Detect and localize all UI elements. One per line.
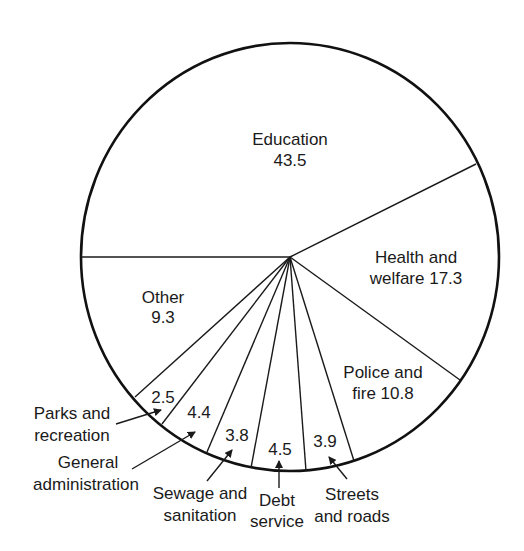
label-parks-line1: Parks and [34, 404, 111, 423]
label-police-line1: Police and [343, 363, 422, 382]
label-health-line1: Health and [375, 248, 457, 267]
label-general-value: 4.4 [187, 403, 211, 422]
label-other-value: 9.3 [151, 308, 175, 327]
label-general-line2: administration [33, 475, 139, 494]
label-health-line2: welfare 17.3 [369, 269, 463, 288]
label-parks-line2: recreation [34, 426, 110, 445]
label-debt-value: 4.5 [268, 440, 292, 459]
label-sewage-line1: Sewage and [153, 484, 248, 503]
arrow-general [132, 432, 195, 469]
label-sewage-line2: sanitation [164, 506, 237, 525]
label-education-value: 43.5 [273, 151, 306, 170]
label-streets-line2: and roads [314, 507, 390, 526]
label-streets-line1: Streets [325, 485, 379, 504]
label-police-line2: fire 10.8 [352, 384, 413, 403]
label-sewage-value: 3.8 [225, 426, 249, 445]
label-debt-line2: service [250, 512, 304, 531]
label-education-name: Education [252, 130, 328, 149]
label-parks-value: 2.5 [151, 388, 175, 407]
label-other-name: Other [142, 288, 185, 307]
pie-chart: Education 43.5 Health and welfare 17.3 P… [0, 0, 524, 551]
label-debt-line1: Debt [259, 491, 295, 510]
label-general-line1: General [58, 453, 118, 472]
label-streets-value: 3.9 [313, 432, 337, 451]
